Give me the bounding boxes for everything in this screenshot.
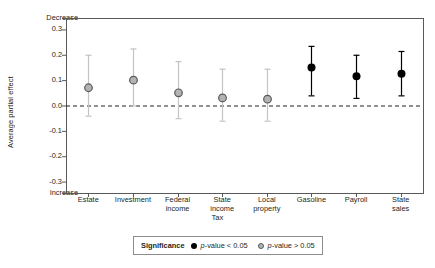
marker-nonsignificant — [130, 76, 138, 84]
plot-area-svg — [0, 0, 435, 268]
data-point-group — [130, 48, 138, 106]
legend-label-significant: p-value < 0.05 — [201, 241, 248, 250]
marker-significant — [398, 70, 406, 78]
data-point-group — [85, 55, 93, 116]
data-point-group — [175, 61, 183, 119]
marker-nonsignificant — [219, 94, 227, 102]
legend-title: Significance — [141, 241, 185, 250]
marker-nonsignificant — [85, 84, 93, 92]
legend-entry-nonsignificant: p-value > 0.05 — [258, 241, 315, 250]
x-axis-title: Tax — [0, 213, 435, 222]
filled-circle-icon — [191, 243, 197, 249]
data-point-group — [353, 55, 361, 99]
data-point-group — [308, 46, 316, 96]
legend-p-rest-1: -value < 0.05 — [205, 241, 248, 250]
data-point-group — [398, 51, 406, 96]
x-axis-label-line: sales — [373, 205, 429, 214]
legend: Significance p-value < 0.05 p-value > 0.… — [133, 236, 323, 255]
marker-significant — [353, 72, 361, 80]
legend-label-nonsignificant: p-value > 0.05 — [268, 241, 315, 250]
data-point-group — [219, 69, 227, 121]
x-axis-label-state-sales: Statesales — [373, 196, 429, 213]
average-partial-effect-chart: Average partial effect 0.30.20.10.0-0.1-… — [0, 0, 435, 268]
marker-nonsignificant — [264, 95, 272, 103]
open-circle-icon — [258, 243, 264, 249]
marker-significant — [308, 63, 316, 71]
data-point-group — [264, 69, 272, 121]
legend-p-rest-2: -value > 0.05 — [272, 241, 315, 250]
legend-entry-significant: p-value < 0.05 — [191, 241, 248, 250]
x-axis-label-line: property — [239, 205, 295, 214]
marker-nonsignificant — [175, 89, 183, 97]
